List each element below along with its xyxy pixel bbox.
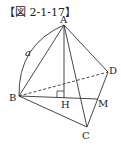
label-M: M [98,98,108,109]
segment-AD [64,25,108,72]
segment-BM [19,96,98,99]
segment-BC [19,96,87,127]
label-C: C [82,130,90,141]
label-A: A [59,14,68,25]
label-arc-a: a [25,47,31,58]
right-angle-mark [57,91,64,98]
segment-AC [64,25,87,127]
geometry-diagram: A B C D H M a [0,0,121,146]
label-H: H [61,99,70,110]
label-D: D [109,65,117,76]
label-B: B [9,92,16,103]
